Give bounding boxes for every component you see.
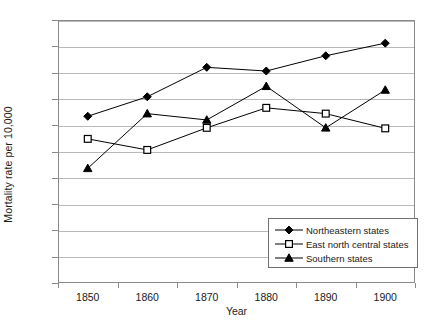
data-point-marker: [143, 93, 151, 101]
x-axis-tick-mark: [356, 283, 357, 288]
legend-marker-open-square-icon: [274, 237, 304, 251]
data-point-marker: [262, 67, 270, 75]
legend-item-3[interactable]: Southern states: [274, 251, 412, 265]
x-axis-tick-mark: [177, 283, 178, 288]
x-axis-tick-label: 1860: [117, 291, 177, 303]
data-point-marker: [203, 124, 210, 131]
x-axis-tick-mark: [296, 283, 297, 288]
legend-label: East north central states: [304, 239, 408, 250]
chart-legend: Northeastern statesEast north central st…: [268, 218, 418, 268]
legend-item-1[interactable]: Northeastern states: [274, 223, 412, 237]
x-axis-tick-label: 1870: [177, 291, 237, 303]
data-point-marker: [322, 52, 330, 60]
x-axis-title: Year: [58, 305, 415, 317]
data-point-marker: [84, 112, 92, 120]
data-point-marker: [322, 110, 329, 117]
data-point-marker: [263, 104, 270, 111]
series-1: [84, 39, 390, 120]
x-axis-tick-mark: [58, 283, 59, 288]
x-axis-tick-label: 1900: [355, 291, 415, 303]
x-axis-tick-label: 1880: [236, 291, 296, 303]
x-axis-tick-mark: [237, 283, 238, 288]
x-axis-tick-mark: [415, 283, 416, 288]
data-point-marker: [382, 125, 389, 132]
legend-marker-filled-diamond-icon: [274, 223, 304, 237]
legend-item-2[interactable]: East north central states: [274, 237, 412, 251]
data-point-marker: [84, 135, 91, 142]
x-axis-tick-mark: [118, 283, 119, 288]
data-point-marker: [381, 39, 389, 47]
legend-marker-filled-triangle-icon: [274, 251, 304, 265]
data-point-marker: [143, 109, 151, 116]
x-axis-tick-label: 1850: [58, 291, 118, 303]
data-point-marker: [322, 124, 330, 131]
x-axis-tick-label: 1890: [296, 291, 356, 303]
legend-label: Northeastern states: [304, 225, 389, 236]
chart-container: Mortality rate per 10,000 05101520253035…: [0, 0, 433, 329]
y-axis-title: Mortality rate per 10,000: [0, 0, 16, 329]
data-point-marker: [203, 63, 211, 71]
data-point-marker: [262, 82, 270, 89]
data-point-marker: [381, 86, 389, 93]
legend-label: Southern states: [304, 253, 373, 264]
data-point-marker: [144, 147, 151, 154]
series-3: [84, 82, 390, 172]
